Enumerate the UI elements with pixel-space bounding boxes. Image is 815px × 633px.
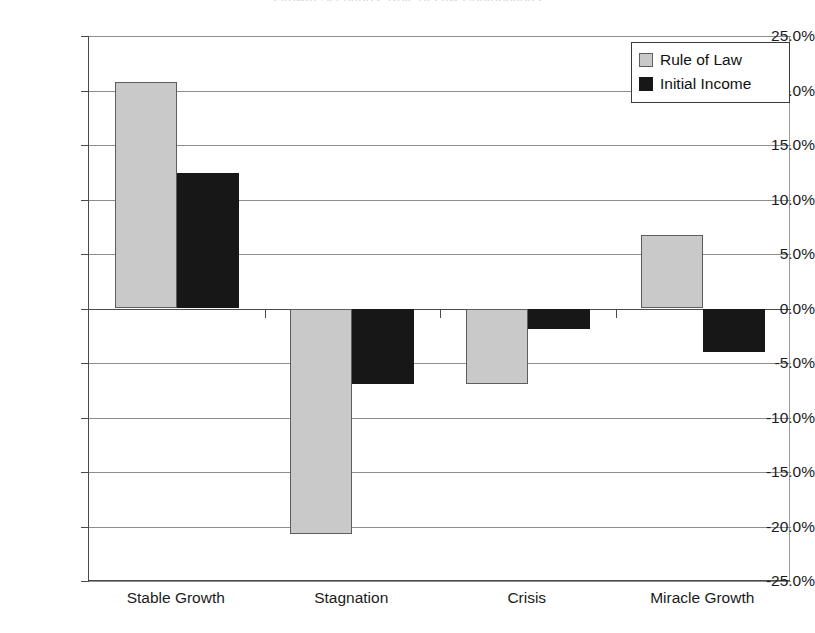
gridline [89, 36, 791, 37]
legend-label-initial-income: Initial Income [660, 76, 751, 92]
y-axis-tick-mark [81, 309, 89, 310]
y-axis-tick-label: 0.0% [737, 300, 815, 318]
legend-item-rule-of-law[interactable]: Rule of Law [639, 48, 782, 72]
y-axis-tick-mark [81, 581, 89, 582]
x-axis-category-label: Stable Growth [127, 589, 225, 607]
y-axis-tick-label: 10.0% [737, 191, 815, 209]
legend-item-initial-income[interactable]: Initial Income [639, 72, 782, 96]
bar [466, 309, 528, 384]
bar [177, 173, 239, 308]
x-axis-category-label: Crisis [507, 589, 546, 607]
x-axis-tick-mark [616, 309, 617, 318]
x-axis-tick-mark [265, 309, 266, 318]
legend-swatch-rule-of-law [639, 53, 653, 67]
gridline [89, 418, 791, 419]
y-axis-tick-mark [81, 254, 89, 255]
y-axis-tick-label: 5.0% [737, 245, 815, 263]
gridline [89, 145, 791, 146]
y-axis-tick-label: -5.0% [737, 354, 815, 372]
y-axis-tick-label: 15.0% [737, 136, 815, 154]
y-axis-tick-mark [81, 472, 89, 473]
y-axis-tick-label: -15.0% [737, 463, 815, 481]
y-axis-tick-label: -25.0% [737, 572, 815, 590]
x-axis-category-label: Miracle Growth [650, 589, 754, 607]
y-axis-tick-mark [81, 418, 89, 419]
bar [528, 309, 590, 330]
bar [290, 309, 352, 535]
legend-label-rule-of-law: Rule of Law [660, 52, 742, 68]
y-axis-tick-label: -10.0% [737, 409, 815, 427]
gridline [89, 581, 791, 582]
y-axis-tick-mark [81, 200, 89, 201]
bar [352, 309, 414, 384]
bar [641, 235, 703, 308]
y-axis-tick-mark [81, 36, 89, 37]
x-axis-category-label: Stagnation [314, 589, 388, 607]
bar [115, 82, 177, 309]
chart-legend: Rule of Law Initial Income [631, 42, 790, 103]
chart-title: Growth Scenarios: Rule of Law Contributi… [0, 0, 815, 1]
y-axis-tick-label: -20.0% [737, 518, 815, 536]
y-axis-tick-mark [81, 363, 89, 364]
y-axis-tick-mark [81, 145, 89, 146]
x-axis-tick-mark [440, 309, 441, 318]
plot-area [88, 36, 790, 581]
y-axis-tick-mark [81, 527, 89, 528]
gridline [89, 527, 791, 528]
y-axis-tick-mark [81, 91, 89, 92]
legend-swatch-initial-income [639, 77, 653, 91]
gridline [89, 363, 791, 364]
gridline [89, 472, 791, 473]
